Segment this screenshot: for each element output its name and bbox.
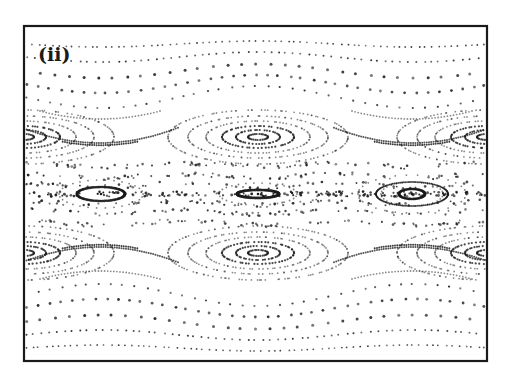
plot-canvas: (ii) — [0, 0, 508, 381]
trajectory-points — [25, 40, 486, 352]
poincare-section-figure: (ii) — [0, 0, 508, 381]
panel-label: (ii) — [38, 43, 70, 65]
plot-frame — [24, 26, 487, 361]
